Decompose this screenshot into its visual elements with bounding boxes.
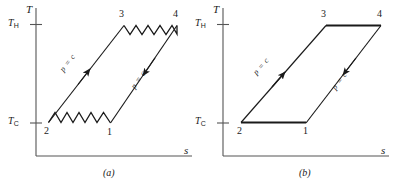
x-axis-label: s xyxy=(184,145,188,156)
state-label-2: 2 xyxy=(237,126,242,136)
panel-a-caption: (a) xyxy=(103,168,115,178)
process-2-1-wavy xyxy=(49,113,111,124)
tc-sub: C xyxy=(201,120,206,127)
state-label-2: 2 xyxy=(44,126,49,136)
process-2-3-arrow xyxy=(272,72,285,87)
th-main: T xyxy=(8,17,14,28)
figure-container: T s TH TC 2 1 3 4 p = c p = c (a) xyxy=(0,0,398,185)
y-tick-label-th: TH xyxy=(8,18,19,28)
y-axis-label: T xyxy=(26,4,32,15)
th-main: T xyxy=(195,17,201,28)
y-tick-label-tc: TC xyxy=(195,116,206,126)
state-label-1: 1 xyxy=(107,127,112,137)
process-3-4-wavy xyxy=(124,26,177,35)
tc-sub: C xyxy=(14,120,19,127)
state-label-1: 1 xyxy=(303,126,308,136)
state-label-4: 4 xyxy=(173,9,178,19)
y-axis-label: T xyxy=(213,4,219,15)
state-label-4: 4 xyxy=(377,9,382,19)
panel-a-graphic xyxy=(0,0,199,185)
tc-main: T xyxy=(8,115,14,126)
tc-main: T xyxy=(195,115,201,126)
th-sub: H xyxy=(14,22,19,29)
panel-a: T s TH TC 2 1 3 4 p = c p = c (a) xyxy=(0,0,199,185)
x-axis-label: s xyxy=(381,145,385,156)
panel-b-graphic xyxy=(199,0,398,185)
th-sub: H xyxy=(201,22,206,29)
state-label-3: 3 xyxy=(321,9,326,19)
state-label-3: 3 xyxy=(119,9,124,19)
y-tick-label-th: TH xyxy=(195,18,206,28)
y-tick-label-tc: TC xyxy=(8,116,19,126)
process-2-3-arrow xyxy=(78,69,90,85)
panel-b-caption: (b) xyxy=(299,168,311,178)
panel-b: T s TH TC 2 1 3 4 p = c p = c (b) xyxy=(199,0,398,185)
